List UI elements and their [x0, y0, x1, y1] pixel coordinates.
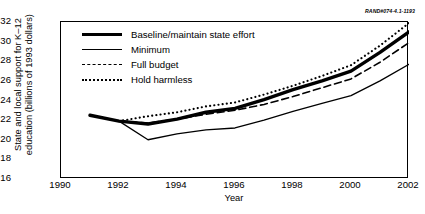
- y-tick-label: 32: [0, 16, 11, 26]
- legend-label: Minimum: [131, 45, 170, 55]
- x-tick-label: 1992: [98, 180, 138, 190]
- source-id-label: RAND#074-4.1-1193: [365, 8, 415, 14]
- legend-item: Baseline/maintain state effort: [82, 27, 255, 42]
- x-tick-label: 2000: [330, 180, 370, 190]
- y-tick-label: 30: [0, 36, 11, 46]
- legend-swatch-dashed: [82, 59, 122, 71]
- legend-label: Baseline/maintain state effort: [131, 30, 255, 40]
- chart-figure: RAND#074-4.1-1193 State and local suppor…: [0, 0, 425, 214]
- y-tick-label: 26: [0, 75, 11, 85]
- legend-label: Full budget: [131, 60, 178, 70]
- x-tick-label: 1996: [214, 180, 254, 190]
- y-tick-label: 28: [0, 55, 11, 65]
- y-axis-title: State and local support for K–12 educati…: [13, 0, 34, 175]
- y-tick-label: 20: [0, 134, 11, 144]
- legend-swatch-dotted: [82, 74, 122, 86]
- y-axis-title-line1: State and local support for K–12: [13, 0, 24, 175]
- x-tick-label: 1998: [272, 180, 312, 190]
- x-tick-label: 1990: [40, 180, 80, 190]
- legend-swatch-thin-solid: [82, 44, 122, 56]
- legend-label: Hold harmless: [131, 75, 192, 85]
- y-axis-title-line2: education (billions of 1993 dollars): [24, 0, 35, 175]
- legend-item: Full budget: [82, 57, 255, 72]
- legend-item: Minimum: [82, 42, 255, 57]
- y-tick-label: 22: [0, 114, 11, 124]
- x-axis-title: Year: [60, 193, 408, 203]
- chart-legend: Baseline/maintain state effortMinimumFul…: [82, 27, 255, 87]
- y-tick-label: 16: [0, 173, 11, 183]
- x-tick-label: 1994: [156, 180, 196, 190]
- legend-item: Hold harmless: [82, 72, 255, 87]
- y-tick-label: 24: [0, 95, 11, 105]
- legend-swatch-thick-solid: [82, 29, 122, 41]
- y-tick-label: 18: [0, 153, 11, 163]
- x-tick-label: 2002: [388, 180, 425, 190]
